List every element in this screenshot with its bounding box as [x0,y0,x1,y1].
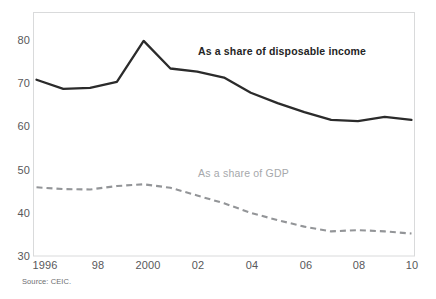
x-axis-tick-2000: 2000 [126,259,170,271]
x-axis-tick-02: 02 [176,259,220,271]
chart-container: 80 70 60 50 40 30 1996 98 2000 02 04 06 … [0,0,436,299]
x-axis-tick-98: 98 [76,259,120,271]
x-axis-tick-1996: 1996 [23,259,67,271]
y-axis-tick-80: 80 [8,34,30,46]
y-axis-tick-70: 70 [8,77,30,89]
x-axis-tick-08: 08 [337,259,381,271]
x-axis-tick-06: 06 [284,259,328,271]
series-label-disposable-income: As a share of disposable income [198,45,366,57]
y-axis-tick-60: 60 [8,120,30,132]
x-axis-tick-10: 10 [390,259,434,271]
series-label-gdp: As a share of GDP [198,167,289,179]
y-axis-tick-40: 40 [8,207,30,219]
series-line-gdp [37,184,412,233]
y-axis-tick-50: 50 [8,164,30,176]
x-axis-tick-04: 04 [230,259,274,271]
source-note: Source: CEIC. [22,277,71,286]
